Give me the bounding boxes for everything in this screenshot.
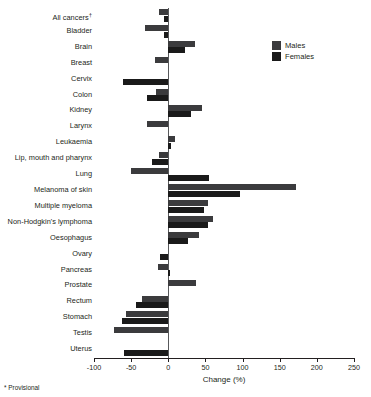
legend-label-females: Females bbox=[285, 52, 314, 61]
bar-males bbox=[168, 280, 195, 286]
bar-females bbox=[164, 16, 168, 22]
bar-females bbox=[168, 175, 209, 181]
legend-item-females: Females bbox=[272, 52, 314, 61]
bar-males bbox=[114, 327, 168, 333]
category-label: Pancreas bbox=[61, 266, 92, 274]
category-label: Ovary bbox=[72, 250, 92, 258]
bar-females bbox=[168, 111, 190, 117]
category-label: Kidney bbox=[69, 106, 92, 114]
x-tick-label: 50 bbox=[190, 363, 220, 372]
x-tick bbox=[131, 358, 132, 362]
plot-area bbox=[94, 8, 354, 358]
bar-males bbox=[158, 264, 168, 270]
x-tick bbox=[280, 358, 281, 362]
bar-males bbox=[126, 311, 168, 317]
bar-females bbox=[168, 143, 170, 149]
x-axis-line bbox=[94, 358, 354, 359]
category-label: Larynx bbox=[70, 122, 92, 130]
bar-males bbox=[168, 105, 201, 111]
category-label: All cancers† bbox=[53, 11, 93, 22]
category-label: Lip, mouth and pharynx bbox=[15, 154, 92, 162]
legend-label-males: Males bbox=[285, 41, 305, 50]
bar-males bbox=[147, 121, 169, 127]
category-label: Colon bbox=[73, 91, 92, 99]
bar-males bbox=[168, 200, 208, 206]
category-label: Prostate bbox=[64, 281, 92, 289]
category-label: Leukaemia bbox=[56, 138, 92, 146]
bar-males bbox=[159, 152, 169, 158]
x-tick-label: 100 bbox=[228, 363, 258, 372]
category-label: Rectum bbox=[67, 297, 92, 305]
x-axis-title: Change (%) bbox=[94, 375, 354, 384]
x-tick bbox=[205, 358, 206, 362]
bar-females bbox=[122, 318, 168, 324]
bar-females bbox=[168, 191, 239, 197]
category-label: Stomach bbox=[63, 313, 92, 321]
x-tick bbox=[168, 358, 169, 362]
x-tick-label: 150 bbox=[265, 363, 295, 372]
bar-males bbox=[156, 89, 169, 95]
bar-females bbox=[168, 47, 185, 53]
bar-males bbox=[159, 9, 169, 15]
legend-swatch-females-icon bbox=[272, 52, 281, 61]
category-label: Lung bbox=[76, 170, 92, 178]
x-tick bbox=[354, 358, 355, 362]
x-tick-label: 0 bbox=[153, 363, 183, 372]
x-tick bbox=[94, 358, 95, 362]
legend-item-males: Males bbox=[272, 41, 314, 50]
category-label: Melanoma of skin bbox=[34, 186, 92, 194]
bar-males bbox=[168, 41, 195, 47]
bar-females bbox=[168, 207, 204, 213]
bar-males bbox=[168, 184, 296, 190]
x-tick-label: -50 bbox=[116, 363, 146, 372]
bar-females bbox=[123, 79, 168, 85]
category-label: Uterus bbox=[70, 345, 92, 353]
bar-males bbox=[131, 168, 168, 174]
legend: Males Females bbox=[272, 41, 314, 63]
legend-swatch-males-icon bbox=[272, 41, 281, 50]
cancer-incidence-change-bar-chart: All cancers†BladderBrainBreastCervixColo… bbox=[0, 0, 371, 397]
chart-footnote: * Provisional bbox=[4, 384, 40, 391]
category-label: Oesophagus bbox=[50, 234, 92, 242]
category-label: Multiple myeloma bbox=[34, 202, 92, 210]
category-label: Breast bbox=[71, 59, 92, 67]
x-tick-label: 250 bbox=[339, 363, 369, 372]
category-label: Cervix bbox=[71, 75, 92, 83]
category-label: Testis bbox=[73, 329, 92, 337]
bar-females bbox=[124, 350, 169, 356]
bar-females bbox=[152, 159, 168, 165]
x-tick-label: -100 bbox=[79, 363, 109, 372]
bar-males bbox=[168, 136, 175, 142]
category-label: Non-Hodgkin's lymphoma bbox=[8, 218, 92, 226]
bar-males bbox=[145, 25, 169, 31]
bar-females bbox=[164, 32, 168, 38]
bar-males bbox=[142, 296, 169, 302]
category-label: Brain bbox=[75, 43, 92, 51]
bar-females bbox=[136, 302, 169, 308]
bar-females bbox=[168, 270, 169, 276]
bar-females bbox=[160, 254, 168, 260]
bar-females bbox=[147, 95, 168, 101]
x-tick-label: 200 bbox=[302, 363, 332, 372]
bar-females bbox=[168, 238, 188, 244]
bar-males bbox=[168, 216, 213, 222]
bar-males bbox=[155, 57, 168, 63]
category-axis-labels: All cancers†BladderBrainBreastCervixColo… bbox=[0, 0, 96, 352]
x-tick bbox=[243, 358, 244, 362]
bar-females bbox=[168, 222, 207, 228]
x-tick bbox=[317, 358, 318, 362]
zero-baseline bbox=[168, 8, 169, 358]
category-label: Bladder bbox=[67, 27, 92, 35]
bar-males bbox=[168, 232, 199, 238]
